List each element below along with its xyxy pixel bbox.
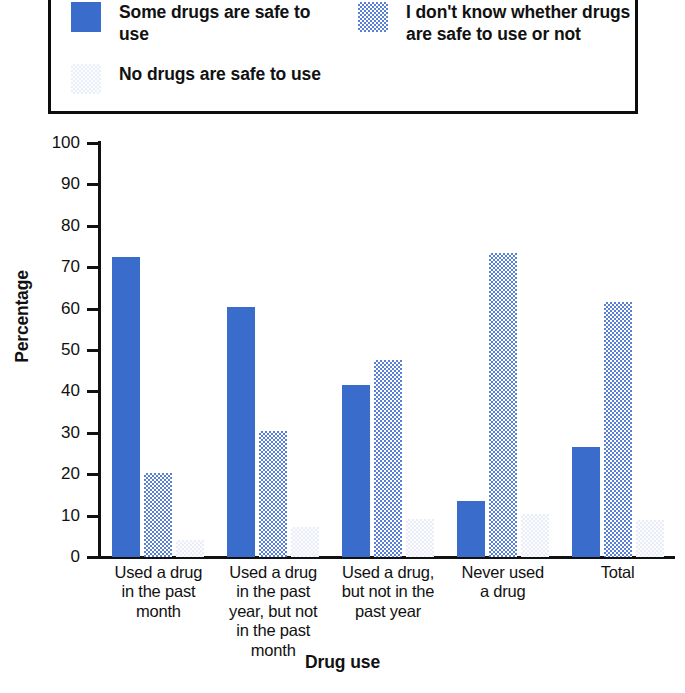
y-tick-label-30: 30 xyxy=(34,423,80,443)
bar-series1-cat5 xyxy=(572,447,600,557)
y-tick-0 xyxy=(87,556,101,559)
y-tick-10 xyxy=(87,515,101,518)
legend-label: No drugs are safe to use xyxy=(119,63,321,85)
y-tick-label-20: 20 xyxy=(34,464,80,484)
bar-series2-cat1 xyxy=(144,473,172,557)
y-tick-90 xyxy=(87,183,101,186)
y-tick-label-90: 90 xyxy=(34,174,80,194)
y-tick-label-100: 100 xyxy=(34,133,80,153)
y-tick-20 xyxy=(87,473,101,476)
y-tick-label-50: 50 xyxy=(34,340,80,360)
bar-series2-cat5 xyxy=(604,302,632,557)
y-tick-80 xyxy=(87,225,101,228)
y-tick-100 xyxy=(87,142,101,145)
legend-label: I don't know whether drugs are safe to u… xyxy=(406,1,633,46)
legend-label: Some drugs are safe to use xyxy=(119,1,321,46)
y-tick-label-0: 0 xyxy=(34,547,80,567)
y-tick-label-10: 10 xyxy=(34,506,80,526)
bar-series1-cat1 xyxy=(112,257,140,557)
x-category-label-1: Used a drugin the pastmonth xyxy=(96,563,221,621)
faint-swatch-icon xyxy=(71,64,101,94)
bar-series3-cat1 xyxy=(176,540,204,557)
bar-series1-cat4 xyxy=(457,501,485,557)
y-tick-50 xyxy=(87,349,101,352)
legend-entry-no-drugs-safe: No drugs are safe to use xyxy=(71,63,401,94)
plot-area xyxy=(101,143,675,557)
bar-series2-cat4 xyxy=(489,253,517,557)
bar-series2-cat3 xyxy=(374,360,402,557)
y-tick-30 xyxy=(87,432,101,435)
bar-series1-cat2 xyxy=(227,307,255,557)
y-tick-label-80: 80 xyxy=(34,216,80,236)
y-tick-40 xyxy=(87,390,101,393)
x-category-label-2: Used a drugin the pastyear, but notin th… xyxy=(211,563,336,660)
bar-series2-cat2 xyxy=(259,431,287,557)
x-category-label-4: Never useda drug xyxy=(440,563,565,602)
dotted-blue-swatch-icon xyxy=(358,2,388,32)
legend-entry-some-drugs-safe: Some drugs are safe to use xyxy=(71,1,321,46)
bar-series3-cat3 xyxy=(406,519,434,557)
x-category-label-5: Total xyxy=(555,563,680,582)
x-category-label-3: Used a drug,but not in thepast year xyxy=(326,563,451,621)
y-tick-60 xyxy=(87,308,101,311)
bar-series3-cat4 xyxy=(521,514,549,557)
y-tick-label-70: 70 xyxy=(34,257,80,277)
bar-series3-cat5 xyxy=(636,520,664,557)
y-tick-label-40: 40 xyxy=(34,381,80,401)
y-tick-70 xyxy=(87,266,101,269)
bar-series3-cat2 xyxy=(291,527,319,557)
solid-blue-swatch-icon xyxy=(71,2,101,32)
legend-entry-dont-know: I don't know whether drugs are safe to u… xyxy=(358,1,633,46)
x-axis-title: Drug use xyxy=(0,652,685,673)
legend-box: Some drugs are safe to use I don't know … xyxy=(48,0,638,114)
bar-series1-cat3 xyxy=(342,385,370,557)
y-tick-label-60: 60 xyxy=(34,299,80,319)
y-axis-title: Percentage xyxy=(12,257,33,377)
